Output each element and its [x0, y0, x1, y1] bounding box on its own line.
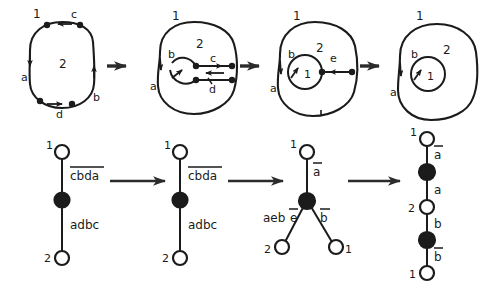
b3-node-center: [299, 193, 315, 209]
top2-edge-label-d: d: [209, 83, 216, 96]
b3-node-bottom-right-label: 1: [345, 243, 352, 256]
top3-edge-label-e: e: [330, 52, 337, 65]
top2-vertex-a: [193, 63, 199, 69]
b4-edge-3-label: b: [434, 217, 442, 231]
top-step-2: 1 2 b c a d: [150, 9, 237, 114]
top2-vertex-b: [229, 63, 235, 69]
b4-node-1: [420, 132, 434, 146]
b4-edge-2-label: a: [434, 183, 441, 197]
b2-node-top-label: 1: [164, 139, 171, 152]
b4-edge-1-label: a: [434, 148, 441, 162]
top2-region-outer-label: 1: [172, 9, 180, 23]
top3-region-inner-label: 2: [316, 41, 324, 55]
top3-arrow-a: [280, 60, 281, 74]
top4-arrow-b: [414, 70, 421, 80]
b3-node-bottom-left-label: 2: [264, 243, 271, 256]
top4-arrow-a: [400, 62, 401, 76]
b1-node-bottom: [55, 251, 69, 265]
b2-node-top: [173, 145, 187, 159]
top1-edge-label-c: c: [71, 8, 77, 21]
b1-edge-top-label: cbda: [70, 169, 99, 183]
top2-vertex-d: [229, 77, 235, 83]
b4-node-3: [420, 200, 434, 214]
top2-arrow-a: [160, 58, 161, 70]
top1-region-inner-label: 2: [59, 57, 67, 71]
top-step-1: 1 2 c a b d: [21, 7, 100, 121]
top4-region-core-label: 1: [427, 70, 434, 83]
b1-node-top-label: 1: [46, 139, 53, 152]
b3-node-bottom-left: [275, 240, 289, 254]
top2-edge-label-c: c: [210, 52, 216, 65]
top3-arrow-b: [291, 68, 298, 78]
b3-node-bottom-right: [329, 240, 343, 254]
top3-region-outer-label: 1: [293, 9, 301, 23]
b4-node-2: [419, 164, 435, 180]
top1-region-outer-label: 1: [33, 7, 41, 21]
top3-edge-label-b: b: [288, 48, 295, 61]
figure-root: 1 2 c a b d 1 2 b c a d: [0, 0, 486, 290]
top1-vertex-a: [44, 22, 50, 28]
b4-node-5: [420, 266, 434, 280]
top2-edge-label-a: a: [150, 80, 157, 93]
top-step-3: 1 2 1 b e a: [270, 9, 357, 116]
bottom-step-1: 1 2 cbda adbc: [44, 139, 104, 265]
b2-node-bottom-label: 2: [162, 252, 169, 265]
b4-node-4: [419, 232, 435, 248]
top4-region-outer-label: 1: [416, 9, 424, 23]
b1-node-mid: [55, 193, 70, 208]
b2-node-mid: [173, 193, 188, 208]
top1-vertex-b: [77, 22, 83, 28]
b1-node-bottom-label: 2: [44, 252, 51, 265]
top2-vertex-c: [193, 77, 199, 83]
top1-edge-label-b: b: [93, 91, 100, 104]
top2-region-inner-label: 2: [196, 37, 204, 51]
bottom-step-4: 1 2 1 a a b b: [408, 126, 443, 281]
b3-node-top-label: 1: [290, 138, 297, 151]
top3-vertex-right: [349, 69, 355, 75]
bottom-step-3: 1 2 1 a aeb e b: [263, 138, 352, 256]
b3-edge-right-label: b: [320, 211, 328, 225]
b4-node-5-label: 1: [409, 268, 416, 281]
top4-edge-label-b: b: [411, 48, 418, 61]
b1-node-top: [55, 145, 69, 159]
top1-vertex-d: [69, 101, 75, 107]
top3-edge-label-a: a: [270, 82, 277, 95]
b2-node-bottom: [173, 251, 187, 265]
top3-vertex-left: [319, 69, 325, 75]
b4-node-1-label: 1: [410, 126, 417, 139]
b2-edge-top-label: cbda: [188, 169, 217, 183]
b4-edge-4-label: b: [434, 250, 442, 264]
figure-canvas: 1 2 c a b d 1 2 b c a d: [0, 0, 486, 290]
top1-vertex-c: [37, 98, 43, 104]
b4-node-3-label: 2: [408, 202, 415, 215]
top4-region-inner-label: 2: [443, 43, 451, 57]
b3-edge-top-label: a: [313, 165, 320, 179]
b3-edge-left-label-overlined: e: [290, 211, 297, 225]
top1-edge-label-d: d: [56, 108, 63, 121]
top4-edge-label-a: a: [390, 86, 397, 99]
top-step-4: 1 2 1 b a: [390, 9, 477, 120]
b3-node-top: [300, 145, 314, 159]
top2-arrow-b: [172, 70, 182, 78]
top1-edge-label-a: a: [21, 71, 28, 84]
top3-region-core-label: 1: [304, 68, 311, 81]
b3-edge-left-label-plain: aeb: [263, 211, 285, 225]
bottom-step-2: 1 2 cbda adbc: [162, 139, 222, 265]
b1-edge-bottom-label: adbc: [70, 218, 99, 232]
top2-edge-label-b: b: [168, 48, 175, 61]
b2-edge-bottom-label: adbc: [188, 218, 217, 232]
